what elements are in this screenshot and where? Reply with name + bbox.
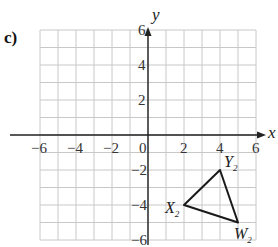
x-tick-label: −4 — [67, 140, 83, 156]
x-tick-label: 0 — [139, 140, 147, 156]
x-axis-arrow-icon — [257, 132, 266, 139]
y-tick-label: 4 — [138, 57, 146, 73]
x-tick-label: 6 — [252, 140, 260, 156]
x-tick-label: 2 — [180, 140, 188, 156]
y-tick-label: −6 — [131, 232, 147, 247]
x-tick-label: −6 — [31, 140, 47, 156]
x-tick-label: −2 — [103, 140, 119, 156]
triangle-outline — [184, 170, 238, 223]
vertex-label-w: W2 — [234, 225, 252, 245]
y-tick-label: −4 — [131, 197, 147, 213]
triangle-w2x2y2: X2Y2W2 — [164, 153, 252, 245]
x-tick-label: 4 — [216, 140, 224, 156]
y-tick-label: −2 — [131, 162, 147, 178]
x-axis-label: x — [267, 123, 276, 142]
y-tick-label: 2 — [138, 92, 146, 108]
coordinate-plane: xy −6−4−20246642−2−4−6 X2Y2W2 — [0, 0, 278, 247]
y-axis-label: y — [150, 5, 160, 24]
y-tick-label: 6 — [138, 22, 146, 38]
y-axis-arrow-icon — [145, 27, 152, 36]
